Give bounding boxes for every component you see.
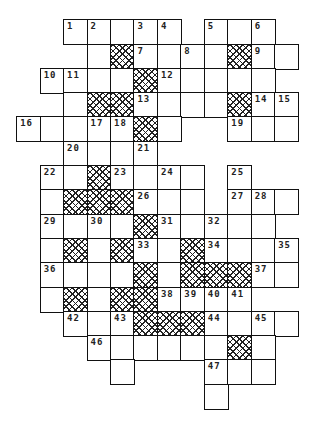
numbered-cell-43[interactable]: 43 [110,311,135,337]
grid-cell[interactable] [251,238,276,264]
grid-cell[interactable] [227,68,252,94]
grid-cell[interactable] [274,116,299,142]
numbered-cell-31[interactable]: 31 [157,214,182,240]
numbered-cell-19[interactable]: 19 [227,116,252,142]
numbered-cell-45[interactable]: 45 [251,311,276,337]
numbered-cell-23[interactable]: 23 [110,165,135,191]
numbered-cell-18[interactable]: 18 [110,116,135,142]
grid-cell[interactable] [40,287,65,313]
numbered-cell-27[interactable]: 27 [227,189,252,215]
numbered-cell-32[interactable]: 32 [204,214,229,240]
grid-cell[interactable] [87,262,112,288]
grid-cell[interactable] [87,68,112,94]
grid-cell[interactable] [180,68,205,94]
numbered-cell-10[interactable]: 10 [40,68,65,94]
grid-cell[interactable] [227,311,252,337]
numbered-cell-26[interactable]: 26 [133,189,158,215]
grid-cell[interactable] [110,262,135,288]
numbered-cell-37[interactable]: 37 [251,262,276,288]
numbered-cell-22[interactable]: 22 [40,165,65,191]
grid-cell[interactable] [87,238,112,264]
numbered-cell-7[interactable]: 7 [133,44,158,70]
grid-cell[interactable] [204,92,229,118]
numbered-cell-6[interactable]: 6 [251,19,276,45]
grid-cell[interactable] [157,92,182,118]
grid-cell[interactable] [251,214,276,240]
grid-cell[interactable] [110,68,135,94]
grid-cell[interactable] [251,116,276,142]
grid-cell[interactable] [274,44,299,70]
grid-cell[interactable] [157,189,182,215]
grid-cell[interactable] [204,384,229,410]
numbered-cell-40[interactable]: 40 [204,287,229,313]
grid-cell[interactable] [157,116,182,142]
grid-cell[interactable] [133,335,158,361]
grid-cell[interactable] [274,311,299,337]
grid-cell[interactable] [87,141,112,167]
numbered-cell-46[interactable]: 46 [87,335,112,361]
numbered-cell-42[interactable]: 42 [63,311,88,337]
grid-cell[interactable] [110,141,135,167]
grid-cell[interactable] [87,311,112,337]
numbered-cell-28[interactable]: 28 [251,189,276,215]
numbered-cell-16[interactable]: 16 [16,116,41,142]
numbered-cell-12[interactable]: 12 [157,68,182,94]
numbered-cell-25[interactable]: 25 [227,165,252,191]
numbered-cell-33[interactable]: 33 [133,238,158,264]
numbered-cell-44[interactable]: 44 [204,311,229,337]
grid-cell[interactable] [204,44,229,70]
grid-cell[interactable] [110,19,135,45]
numbered-cell-20[interactable]: 20 [63,141,88,167]
grid-cell[interactable] [180,165,205,191]
grid-cell[interactable] [40,238,65,264]
grid-cell[interactable] [63,214,88,240]
numbered-cell-1[interactable]: 1 [63,19,88,45]
numbered-cell-13[interactable]: 13 [133,92,158,118]
grid-cell[interactable] [63,92,88,118]
grid-cell[interactable] [157,262,182,288]
grid-cell[interactable] [227,238,252,264]
numbered-cell-39[interactable]: 39 [180,287,205,313]
grid-cell[interactable] [157,44,182,70]
numbered-cell-14[interactable]: 14 [251,92,276,118]
grid-cell[interactable] [157,238,182,264]
grid-cell[interactable] [63,262,88,288]
grid-cell[interactable] [110,359,135,385]
numbered-cell-30[interactable]: 30 [87,214,112,240]
numbered-cell-41[interactable]: 41 [227,287,252,313]
numbered-cell-29[interactable]: 29 [40,214,65,240]
grid-cell[interactable] [227,19,252,45]
grid-cell[interactable] [87,44,112,70]
grid-cell[interactable] [180,214,205,240]
grid-cell[interactable] [40,116,65,142]
numbered-cell-11[interactable]: 11 [63,68,88,94]
numbered-cell-3[interactable]: 3 [133,19,158,45]
numbered-cell-21[interactable]: 21 [133,141,158,167]
grid-cell[interactable] [87,287,112,313]
numbered-cell-8[interactable]: 8 [180,44,205,70]
numbered-cell-15[interactable]: 15 [274,92,299,118]
grid-cell[interactable] [251,68,276,94]
grid-cell[interactable] [63,165,88,191]
numbered-cell-17[interactable]: 17 [87,116,112,142]
grid-cell[interactable] [204,335,229,361]
grid-cell[interactable] [157,335,182,361]
grid-cell[interactable] [204,68,229,94]
numbered-cell-24[interactable]: 24 [157,165,182,191]
numbered-cell-5[interactable]: 5 [204,19,229,45]
grid-cell[interactable] [227,359,252,385]
grid-cell[interactable] [251,335,276,361]
grid-cell[interactable] [180,335,205,361]
numbered-cell-35[interactable]: 35 [274,238,299,264]
grid-cell[interactable] [251,359,276,385]
grid-cell[interactable] [274,189,299,215]
grid-cell[interactable] [180,92,205,118]
grid-cell[interactable] [110,335,135,361]
numbered-cell-34[interactable]: 34 [204,238,229,264]
grid-cell[interactable] [63,116,88,142]
grid-cell[interactable] [133,165,158,191]
numbered-cell-4[interactable]: 4 [157,19,182,45]
grid-cell[interactable] [40,189,65,215]
numbered-cell-38[interactable]: 38 [157,287,182,313]
grid-cell[interactable] [110,214,135,240]
